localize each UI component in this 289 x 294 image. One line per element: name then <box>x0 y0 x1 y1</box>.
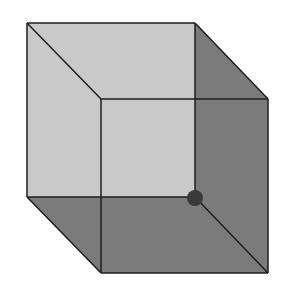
vertex-dot-marker <box>187 190 203 206</box>
necker-cube-diagram <box>0 0 289 294</box>
front-right-dark <box>195 99 268 273</box>
front-lower-dark <box>101 197 195 273</box>
